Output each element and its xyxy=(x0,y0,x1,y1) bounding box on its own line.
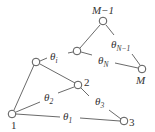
edge-1-2-b xyxy=(58,87,74,93)
graph-diagram: M−1 M 2 1 3 θi θN−1 θN θ2 θ3 θ1 xyxy=(0,0,155,132)
node-m-minus-1 xyxy=(99,17,107,25)
label-1: 1 xyxy=(11,119,17,131)
edge-a-1 xyxy=(14,65,34,110)
angle-theta-1: θ1 xyxy=(63,110,72,125)
angle-theta-n-1: θN−1 xyxy=(111,38,130,53)
node-b xyxy=(73,47,81,55)
angle-theta-3: θ3 xyxy=(95,95,104,110)
edge-1-2-a xyxy=(16,102,40,112)
edge-m1-b xyxy=(80,25,100,48)
node-a xyxy=(32,58,40,66)
node-2 xyxy=(74,81,82,89)
label-3: 3 xyxy=(129,116,135,128)
edge-b-m-a xyxy=(81,52,92,55)
edge-1-3-a xyxy=(16,114,60,117)
angle-theta-2: θ2 xyxy=(44,91,53,106)
edge-b-m-b xyxy=(115,63,138,68)
edge-2-3-b xyxy=(109,110,121,119)
label-m-minus-1: M−1 xyxy=(91,4,114,16)
label-2: 2 xyxy=(84,76,90,88)
edge-1-3-b xyxy=(80,118,120,121)
label-m: M xyxy=(135,74,146,86)
edge-m1-m-a xyxy=(106,25,114,35)
edge-a-2 xyxy=(40,64,75,83)
node-3 xyxy=(120,117,128,125)
edge-a-b-b xyxy=(68,52,73,53)
node-m xyxy=(138,65,146,73)
angle-theta-n: θN xyxy=(98,54,109,69)
edge-a-b-a xyxy=(40,58,47,61)
angle-theta-i: θi xyxy=(50,50,58,65)
edge-m1-m-b xyxy=(132,54,140,65)
node-1 xyxy=(8,110,16,118)
edge-2-3-a xyxy=(81,88,89,96)
